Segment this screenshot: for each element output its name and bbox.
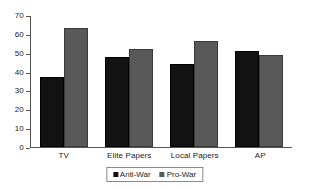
legend-entry-anti-war: Anti-War xyxy=(113,170,151,179)
y-axis-tick-label: 50 xyxy=(15,50,24,58)
bar-group xyxy=(227,14,292,147)
bar-anti-war[interactable] xyxy=(40,77,64,147)
bar-group xyxy=(31,14,96,147)
y-axis-tick-mark xyxy=(26,91,30,92)
y-axis-tick-mark xyxy=(26,129,30,130)
bar-pro-war[interactable] xyxy=(259,55,283,147)
x-axis-line xyxy=(30,147,292,148)
chart-legend: Anti-War Pro-War xyxy=(106,167,203,182)
x-axis-category-label: Local Papers xyxy=(162,151,228,161)
plot-area: 010203040506070 xyxy=(30,14,292,148)
y-axis-tick-label: 70 xyxy=(15,12,24,20)
x-axis-category-label: AP xyxy=(228,151,294,161)
x-axis-category-labels: TVElite PapersLocal PapersAP xyxy=(31,151,293,161)
bar-anti-war[interactable] xyxy=(235,51,259,147)
bar-pro-war[interactable] xyxy=(129,49,153,147)
bar-pro-war[interactable] xyxy=(64,28,88,147)
bar-group xyxy=(96,14,161,147)
y-axis-tick-label: 30 xyxy=(15,87,24,95)
bar-groups xyxy=(31,14,292,147)
y-axis-tick-mark xyxy=(26,16,30,17)
y-axis-tick-mark xyxy=(26,110,30,111)
bar-anti-war[interactable] xyxy=(105,57,129,148)
y-axis-tick-label: 60 xyxy=(15,31,24,39)
legend-entry-pro-war: Pro-War xyxy=(160,170,196,179)
y-axis-tick-label: 10 xyxy=(15,125,24,133)
x-axis-category-label: Elite Papers xyxy=(97,151,163,161)
bar-anti-war[interactable] xyxy=(170,64,194,147)
bar-group xyxy=(162,14,227,147)
bar-pro-war[interactable] xyxy=(194,41,218,147)
y-axis-tick-label: 20 xyxy=(15,106,24,114)
legend-swatch-pro-war-icon xyxy=(160,172,165,177)
y-axis-tick-mark xyxy=(26,35,30,36)
y-axis-tick-label: 40 xyxy=(15,69,24,77)
y-axis-tick-mark xyxy=(26,54,30,55)
y-axis-tick-mark xyxy=(26,73,30,74)
legend-swatch-anti-war-icon xyxy=(113,172,118,177)
y-axis-tick-mark xyxy=(26,148,30,149)
bar-chart: 010203040506070 TVElite PapersLocal Pape… xyxy=(0,0,309,189)
legend-label-pro-war: Pro-War xyxy=(167,170,196,179)
legend-label-anti-war: Anti-War xyxy=(120,170,151,179)
x-axis-category-label: TV xyxy=(31,151,97,161)
y-axis-tick-label: 0 xyxy=(19,144,24,152)
